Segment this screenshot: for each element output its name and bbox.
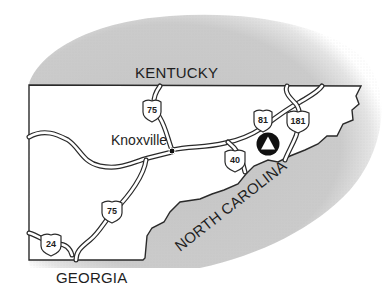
shield-label: 75 [107,206,117,216]
highway-shield-i24: 24 [41,234,61,256]
shield-label: 81 [258,115,268,125]
state-label-kentucky: KENTUCKY [135,64,218,81]
highway-shield-i81: 81 [254,110,272,132]
shield-label: 40 [230,155,240,165]
location-marker-icon [257,133,280,156]
knoxville-city-dot [169,148,175,154]
city-label-knoxville: Knoxville [111,132,167,148]
shield-label: 75 [147,105,157,115]
highway-shield-i75-north: 75 [143,100,161,122]
shield-label: 181 [290,116,305,126]
highway-shield-i181: 181 [287,111,309,133]
map-canvas: 75 81 181 40 75 24 KENTUCKY GEORGIA NORT… [0,0,389,306]
highway-shield-i75-south: 75 [102,201,122,223]
highway-shield-i40: 40 [225,150,245,172]
shield-label: 24 [46,239,56,249]
state-label-georgia: GEORGIA [56,269,127,286]
